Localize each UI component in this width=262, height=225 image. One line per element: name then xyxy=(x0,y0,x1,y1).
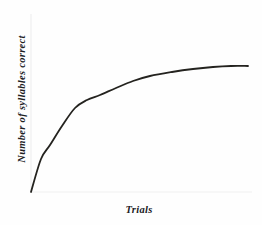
x-axis-label: Trials xyxy=(125,204,152,215)
learning-curve-line xyxy=(31,66,248,192)
plot-area xyxy=(0,0,262,225)
learning-curve-figure: Number of syllables correct Trials xyxy=(0,0,262,225)
y-axis-label: Number of syllables correct xyxy=(16,35,27,162)
